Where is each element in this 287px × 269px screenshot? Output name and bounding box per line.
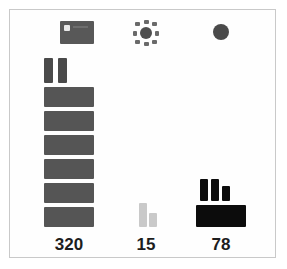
unit-stack-middle xyxy=(118,203,174,227)
unit-block xyxy=(44,159,94,179)
flag-icon xyxy=(60,21,94,44)
partial-unit-bar xyxy=(211,179,219,201)
unit-chart-figure: 320 15 78 xyxy=(0,0,287,269)
unit-stack-right xyxy=(190,179,252,227)
chart-column-middle: 15 xyxy=(118,0,174,269)
partial-unit-bar xyxy=(44,58,53,83)
icon-slot-right xyxy=(190,18,252,48)
unit-block xyxy=(44,183,94,203)
sunburst-ray xyxy=(135,40,140,44)
sunburst-ray xyxy=(133,31,137,36)
unit-stack-left xyxy=(38,58,100,227)
partial-unit-bar xyxy=(222,186,230,201)
partial-unit-bar xyxy=(200,179,208,201)
sunburst-ray xyxy=(152,22,157,26)
icon-slot-left xyxy=(38,18,100,48)
sunburst-ray xyxy=(155,31,159,36)
unit-block xyxy=(196,205,246,227)
chart-column-left: 320 xyxy=(38,0,100,269)
value-label-right: 78 xyxy=(190,235,252,255)
unit-block xyxy=(44,207,94,227)
partial-unit-bar xyxy=(139,203,147,227)
unit-block xyxy=(44,111,94,131)
icon-slot-middle xyxy=(118,18,174,48)
sunburst-ray xyxy=(144,20,149,24)
sunburst-ray xyxy=(152,40,157,44)
value-label-left: 320 xyxy=(38,235,100,255)
unit-block xyxy=(44,87,94,107)
sunburst-core xyxy=(140,27,152,39)
partial-unit-bar xyxy=(149,213,157,227)
partial-unit-bar xyxy=(58,58,67,83)
sunburst-ray xyxy=(135,22,140,26)
sunburst-icon xyxy=(133,20,159,46)
value-label-middle: 15 xyxy=(118,235,174,255)
sunburst-ray xyxy=(144,42,149,46)
chart-column-right: 78 xyxy=(190,0,252,269)
unit-block xyxy=(44,135,94,155)
dot-icon xyxy=(213,24,229,40)
